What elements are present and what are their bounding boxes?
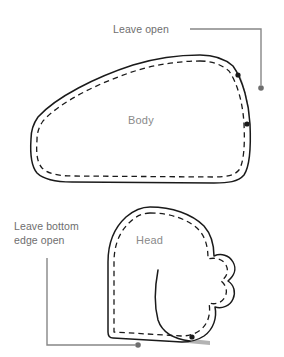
pattern-piece-head (108, 207, 235, 345)
annotation-leave-bottom-line2: edge open (14, 233, 79, 247)
head-outline (108, 207, 235, 342)
head-seam-endpoint-right (189, 334, 194, 339)
body-seam-endpoint-top (235, 72, 240, 77)
piece-label-body: Body (128, 114, 154, 126)
annotation-leave-bottom-edge-open: Leave bottom edge open (14, 219, 79, 247)
annotation-leave-bottom-line1: Leave bottom (14, 220, 79, 232)
body-seam-endpoint-bottom (244, 121, 249, 126)
leader-terminal-dot-leave-open (258, 85, 264, 91)
pattern-diagram-canvas: Body Head Leave open Leave bottom edge o… (0, 0, 284, 357)
leader-terminal-dot-leave-bottom (135, 342, 141, 348)
pattern-diagram-svg (0, 0, 284, 357)
annotation-leave-open: Leave open (113, 22, 169, 36)
piece-label-head: Head (136, 234, 163, 246)
